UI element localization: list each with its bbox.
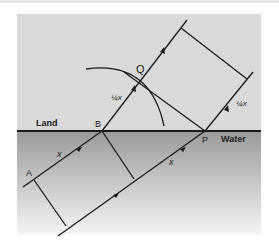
point-Q-label: Q (136, 63, 145, 75)
water-region (17, 131, 261, 234)
point-P-label: P (202, 135, 208, 145)
refraction-diagram: Land Water B A P Q x x ¼x ¼x (0, 0, 279, 249)
point-B-label: B (95, 119, 101, 129)
length-quarter-x-label-right: ¼x (236, 99, 248, 108)
length-x-label-lower: x (168, 157, 174, 167)
water-label: Water (221, 134, 246, 144)
length-quarter-x-label-left: ¼x (111, 93, 123, 102)
land-label: Land (36, 118, 58, 128)
length-x-label-upper: x (56, 149, 62, 159)
point-A-label: A (26, 168, 32, 178)
